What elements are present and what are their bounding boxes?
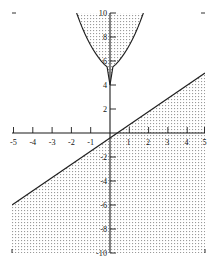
y-tick-label: -8	[100, 225, 107, 234]
x-tick-label: -5	[10, 138, 17, 147]
y-tick-label: -2	[100, 153, 107, 162]
x-tick-label: -1	[87, 138, 94, 147]
coordinate-plane: -5 -4 -3 -2 -1 1 2 3 4 5 10 8 6 4 2 -2 -…	[0, 0, 217, 264]
y-tick-label: 8	[103, 33, 107, 42]
x-tick-label: -2	[68, 138, 75, 147]
y-tick-label: 10	[99, 9, 107, 18]
y-tick-label: 6	[103, 57, 107, 66]
y-tick-label: 4	[103, 81, 107, 90]
y-tick-label: 2	[103, 105, 107, 114]
x-tick-label: -3	[49, 138, 56, 147]
line-shaded-region	[12, 73, 205, 253]
x-tick-label: -4	[29, 138, 36, 147]
x-tick-label: 3	[165, 138, 169, 147]
x-tick-label: 2	[146, 138, 150, 147]
graph-figure: -5 -4 -3 -2 -1 1 2 3 4 5 10 8 6 4 2 -2 -…	[0, 0, 217, 264]
x-tick-label: 4	[185, 138, 189, 147]
y-tick-label: -6	[100, 201, 107, 210]
x-tick-label: 1	[127, 138, 131, 147]
y-tick-label: -4	[100, 177, 107, 186]
x-tick-label: 5	[202, 138, 206, 147]
y-tick-label: -10	[96, 249, 107, 258]
